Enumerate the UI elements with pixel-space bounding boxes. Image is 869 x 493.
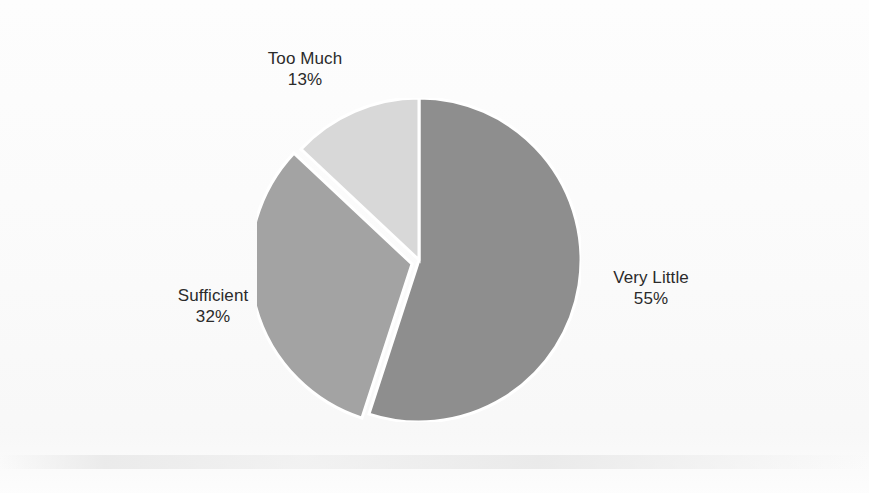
pie-chart: [257, 98, 581, 422]
pie-label-too-much-name: Too Much: [232, 48, 378, 69]
pie-label-sufficient: Sufficient 32%: [140, 285, 286, 327]
pie-label-sufficient-value: 32%: [140, 306, 286, 327]
pie-chart-page: Too Much 13% Sufficient 32% Very Little …: [0, 0, 869, 493]
pie-label-too-much: Too Much 13%: [232, 48, 378, 90]
pie-chart-svg: [257, 98, 581, 422]
pie-label-sufficient-name: Sufficient: [140, 285, 286, 306]
scan-streak-artifact: [0, 455, 869, 469]
pie-label-too-much-value: 13%: [232, 69, 378, 90]
pie-label-very-little-name: Very Little: [578, 267, 724, 288]
pie-label-very-little-value: 55%: [578, 288, 724, 309]
pie-label-very-little: Very Little 55%: [578, 267, 724, 309]
